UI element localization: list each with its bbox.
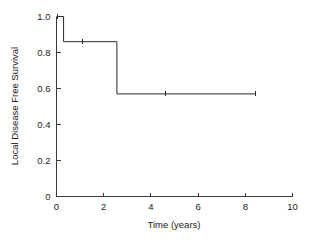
y-axis-tick-label: 0.2 [37,155,50,166]
chart-figure: 024681000.20.40.60.81.0 Time (years) Loc… [0,0,316,240]
censor-marks-group [58,14,256,96]
survival-curve-group [57,17,256,94]
tick-labels-group: 024681000.20.40.60.81.0 [37,11,298,212]
x-axis-tick-label: 8 [243,201,248,212]
x-axis-tick-label: 4 [148,201,153,212]
y-axis-tick-label: 0.4 [37,119,50,130]
y-axis-tick-label: 0.8 [37,47,50,58]
ticks-group [57,17,293,197]
survival-step-line [57,17,256,94]
x-axis-tick-label: 0 [54,201,59,212]
y-axis-tick-label: 1.0 [37,11,50,22]
x-axis-tick-label: 6 [195,201,200,212]
y-axis-title: Local Disease Free Survival [9,47,20,165]
x-axis-tick-label: 10 [287,201,298,212]
axes-group [57,17,293,197]
kaplan-meier-plot: 024681000.20.40.60.81.0 Time (years) Loc… [0,0,316,240]
y-axis-tick-label: 0 [45,191,50,202]
axis-spines [57,17,293,197]
x-axis-title: Time (years) [148,219,201,230]
y-axis-tick-label: 0.6 [37,83,50,94]
x-axis-tick-label: 2 [101,201,106,212]
